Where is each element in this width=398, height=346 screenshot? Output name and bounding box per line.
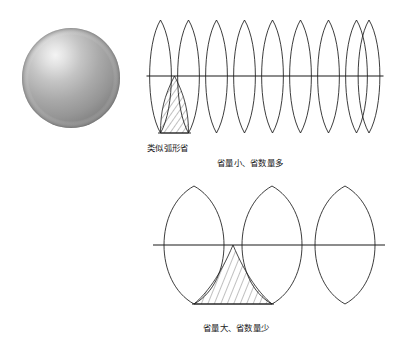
caption-large-dart-few: 省量大、省数量少: [203, 323, 269, 333]
caption-arc-dart: 类似弧形省: [147, 143, 189, 153]
caption-small-dart-many: 省量小、省数量多: [217, 158, 283, 168]
hatch-fill-top: [150, 70, 200, 140]
sphere-group: [22, 28, 120, 128]
gore-pattern-diagram: 类似弧形省 省量小、省数量多 省量大、省数量少: [0, 0, 398, 346]
overlap-gore-bottom: [185, 235, 285, 310]
sphere-edge-shade: [22, 28, 120, 128]
overlap-gore-top: [150, 70, 200, 140]
